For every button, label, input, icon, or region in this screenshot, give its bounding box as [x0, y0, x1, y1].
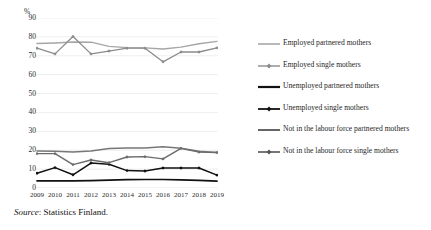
y-tick-label: 60 — [16, 71, 36, 79]
series-marker — [215, 151, 218, 154]
figure-container: % 0102030405060708090 200920102011201220… — [0, 0, 431, 230]
source-note: Source: Statistics Finland. — [14, 207, 108, 218]
series-marker — [125, 155, 128, 158]
legend-swatch-icon — [258, 104, 280, 114]
y-tick-label: 10 — [16, 165, 36, 173]
y-tick-label: 20 — [16, 146, 36, 154]
source-value: Statistics Finland. — [43, 207, 108, 217]
x-tick-label: 2014 — [120, 191, 134, 200]
series-employed-single — [36, 35, 218, 64]
x-tick-label: 2013 — [102, 191, 116, 200]
x-tick-label: 2019 — [210, 191, 224, 200]
legend-label: Unemployed partnered mothers — [283, 81, 430, 91]
series-marker — [197, 50, 200, 53]
legend-swatch-icon — [258, 82, 280, 92]
x-tick-label: 2018 — [192, 191, 206, 200]
series-marker — [36, 47, 39, 50]
legend-swatch-icon — [258, 39, 280, 49]
y-tick-label: 30 — [16, 127, 36, 135]
legend-item[interactable]: Unemployed partnered mothers — [258, 81, 430, 92]
x-tick-label: 2010 — [48, 191, 62, 200]
series-marker — [215, 46, 218, 49]
x-tick-label: 2011 — [66, 191, 80, 200]
plot-area — [36, 18, 218, 188]
y-tick-label: 50 — [16, 90, 36, 98]
series-marker — [143, 169, 146, 172]
x-tick-label: 2017 — [174, 191, 188, 200]
x-tick-label: 2015 — [138, 191, 152, 200]
legend-swatch-icon — [258, 147, 280, 157]
series-unemployed-partnered — [37, 180, 217, 182]
y-tick-label: 40 — [16, 108, 36, 116]
legend-item[interactable]: Employed single mothers — [258, 60, 430, 71]
series-marker — [89, 158, 92, 161]
source-label: Source — [14, 207, 39, 217]
line-chart — [36, 18, 218, 188]
x-axis-tick-labels: 2009201020112012201320142015201620172018… — [36, 191, 218, 203]
y-axis-tick-labels: 0102030405060708090 — [16, 14, 36, 194]
x-tick-label: 2016 — [156, 191, 170, 200]
series-line — [37, 180, 217, 182]
legend-label: Not in the labour force single mothers — [283, 146, 430, 156]
series-marker — [36, 152, 39, 155]
legend-item[interactable]: Unemployed single mothers — [258, 103, 430, 114]
legend-item[interactable]: Employed partnered mothers — [258, 38, 430, 49]
x-tick-label: 2012 — [84, 191, 98, 200]
y-tick-label: 90 — [16, 14, 36, 22]
x-tick-label: 2009 — [30, 191, 44, 200]
legend-label: Unemployed single mothers — [283, 103, 430, 113]
legend-item[interactable]: Not in the labour force single mothers — [258, 146, 430, 157]
y-tick-label: 70 — [16, 52, 36, 60]
legend-swatch-icon — [258, 125, 280, 135]
legend-label: Not in the labour force partnered mother… — [283, 124, 430, 134]
legend-label: Employed single mothers — [283, 60, 430, 70]
legend-label: Employed partnered mothers — [283, 38, 430, 48]
series-marker — [107, 49, 110, 52]
series-marker — [143, 155, 146, 158]
y-tick-label: 80 — [16, 33, 36, 41]
legend-item[interactable]: Not in the labour force partnered mother… — [258, 124, 430, 135]
legend-swatch-icon — [258, 61, 280, 71]
chart-legend: Employed partnered mothersEmployed singl… — [258, 38, 430, 167]
